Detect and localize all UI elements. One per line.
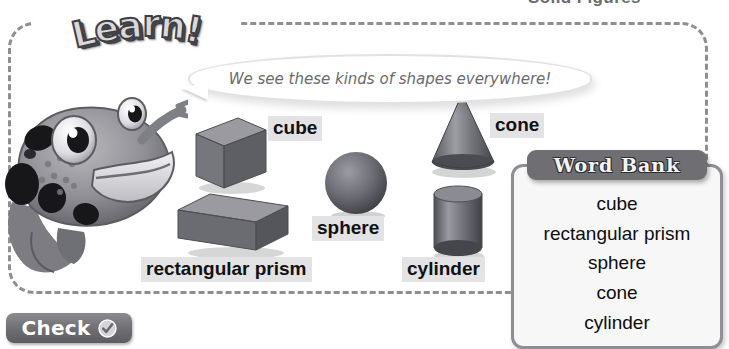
shape-label-cube: cube — [268, 116, 322, 141]
word-bank-item: cube — [514, 189, 720, 219]
word-bank-item: cone — [514, 278, 720, 308]
page-title: Solid Figures — [528, 0, 641, 8]
word-bank-list: cube rectangular prism sphere cone cylin… — [514, 189, 720, 337]
rectangular-prism-3d-icon — [172, 190, 294, 260]
sphere-3d-icon — [322, 150, 392, 222]
word-bank-header: Word Bank — [527, 150, 707, 180]
word-bank-item: sphere — [514, 248, 720, 278]
check-circle-icon — [98, 319, 117, 338]
shape-label-rectangular-prism: rectangular prism — [141, 257, 312, 282]
word-bank-item: cylinder — [514, 308, 720, 338]
cylinder-3d-icon — [428, 182, 490, 262]
cube-3d-icon — [186, 112, 272, 196]
learn-banner: L e a r n ! — [34, 2, 239, 54]
check-button-label: Check — [21, 316, 90, 340]
check-button[interactable]: Check — [6, 313, 132, 343]
learn-letter: r — [142, 6, 160, 42]
activity-screen: Solid Figures L e a r n ! We see these k… — [0, 0, 729, 349]
word-bank-item: rectangular prism — [514, 219, 720, 249]
word-bank-panel: cube rectangular prism sphere cone cylin… — [511, 164, 723, 349]
shape-label-cylinder: cylinder — [402, 257, 485, 282]
learn-letter: a — [116, 7, 143, 45]
shape-label-sphere: sphere — [312, 216, 384, 241]
word-bank-title: Word Bank — [554, 154, 681, 176]
fish-mascot-icon — [2, 82, 188, 278]
shape-label-cone: cone — [490, 113, 544, 138]
speech-bubble: We see these kinds of shapes everywhere! — [188, 54, 592, 104]
speech-bubble-text: We see these kinds of shapes everywhere! — [190, 56, 590, 102]
learn-banner-text: L e a r n ! — [34, 2, 239, 54]
